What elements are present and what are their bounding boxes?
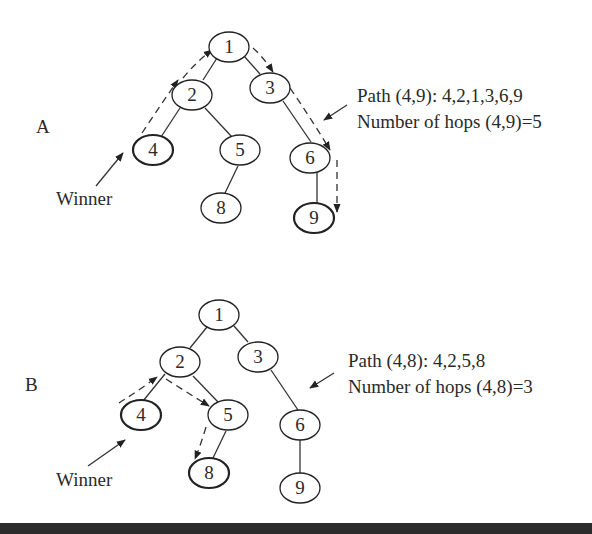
edge-3-6 [283,101,311,142]
edge-2-5 [193,376,218,402]
path-arrow-1-3 [253,48,273,72]
node-label: 8 [216,197,226,218]
edge-1-3 [234,326,248,342]
node-label: 6 [295,414,305,435]
edge-2-4 [161,108,180,137]
tree-node-2: 2 [160,347,200,377]
tree-node-9: 9 [294,203,334,233]
node-label: 5 [235,139,245,160]
tree-node-8: 8 [201,193,241,223]
edge-1-2 [190,327,207,348]
path-arrow-2-5 [166,379,209,406]
path-pointer-a [324,105,347,120]
diagram-b-edges [143,326,300,474]
edge-1-3 [244,56,260,74]
node-label: 3 [265,77,275,98]
edge-5-8 [213,431,226,458]
winner-pointer-a [96,153,123,186]
edge-2-5 [205,108,232,137]
node-label: 4 [136,404,146,425]
diagram-a-edges [161,56,317,203]
tree-node-1: 1 [209,32,249,62]
path-pointer-b [310,373,334,388]
node-label: 5 [223,404,233,425]
node-label: 9 [309,207,319,228]
diagram-b-nodes: 12345689 [121,300,320,503]
diagram-b-label: B [25,374,38,396]
diagram-b-winner-label: Winner [56,469,112,491]
node-label: 2 [175,351,185,372]
tree-node-6: 6 [280,410,320,440]
node-label: 2 [187,84,197,105]
node-label: 4 [148,139,158,160]
node-label: 6 [305,147,315,168]
tree-node-4: 4 [133,135,173,165]
node-label: 9 [295,477,305,498]
tree-node-4: 4 [121,400,161,430]
node-label: 1 [224,36,234,57]
tree-node-9: 9 [280,473,320,503]
node-label: 3 [253,346,263,367]
path-arrow-4-2 [142,80,178,133]
tree-node-3: 3 [238,342,278,372]
path-arrow-5-8 [195,427,206,459]
edge-5-8 [225,166,238,193]
tree-node-6: 6 [290,143,330,173]
diagram-a-winner-label: Winner [56,188,112,210]
tree-node-5: 5 [220,135,260,165]
edge-1-2 [203,58,217,80]
node-label: 8 [204,462,214,483]
diagram-b-path-text: Path (4,8): 4,2,5,8 [348,350,485,372]
tree-node-3: 3 [250,73,290,103]
tree-node-8: 8 [189,458,229,488]
tree-node-5: 5 [208,400,248,430]
diagram-a-label: A [36,116,50,138]
diagram-b-hops-text: Number of hops (4,8)=3 [348,376,533,398]
bottom-border-bar [0,523,592,534]
tree-node-1: 1 [199,300,239,330]
edge-2-4 [143,374,165,401]
diagram-b: 12345689 [88,300,334,503]
tree-node-2: 2 [172,80,212,110]
diagram-a: 12345689 [96,32,347,233]
edge-3-6 [271,370,298,410]
node-label: 1 [214,304,224,325]
diagram-a-path-text: Path (4,9): 4,2,1,3,6,9 [357,85,523,107]
tree-diagrams: 12345689 12345689 [0,0,592,534]
diagram-a-hops-text: Number of hops (4,9)=5 [357,111,542,133]
diagram-a-path-arrows [142,48,337,212]
winner-pointer-b [88,440,125,466]
